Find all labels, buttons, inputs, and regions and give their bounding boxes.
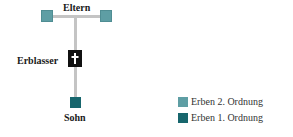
parent-node-left	[41, 10, 53, 22]
parents-label: Eltern	[63, 2, 90, 13]
son-label: Sohn	[64, 112, 86, 123]
legend-swatch-second-order	[178, 97, 188, 107]
decedent-label: Erblasser	[17, 55, 58, 66]
legend-label-first-order: Erben 1. Ordnung	[191, 112, 263, 123]
legend-item-second-order: Erben 2. Ordnung	[178, 96, 263, 107]
cross-icon	[68, 50, 82, 67]
legend-swatch-first-order	[178, 113, 188, 123]
son-node	[70, 97, 81, 108]
decedent-node	[68, 50, 82, 67]
parent-node-right	[100, 10, 112, 22]
legend-item-first-order: Erben 1. Ordnung	[178, 112, 263, 123]
legend-label-second-order: Erben 2. Ordnung	[191, 96, 263, 107]
